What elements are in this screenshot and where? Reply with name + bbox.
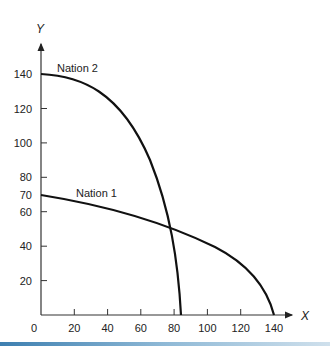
x-tick-labels: 0 20 40 60 80 100 120 140 <box>31 322 283 334</box>
svg-text:60: 60 <box>20 206 32 218</box>
svg-text:140: 140 <box>265 322 283 334</box>
svg-text:80: 80 <box>168 322 180 334</box>
svg-text:120: 120 <box>232 322 250 334</box>
x-ticks <box>74 309 240 315</box>
svg-text:20: 20 <box>20 275 32 287</box>
nation-1-curve <box>41 195 274 315</box>
svg-text:80: 80 <box>20 171 32 183</box>
svg-text:20: 20 <box>68 322 80 334</box>
svg-text:0: 0 <box>31 322 37 334</box>
ppf-chart: Y X 20 40 60 70 80 100 120 140 0 20 40 6… <box>0 0 330 346</box>
svg-text:60: 60 <box>135 322 147 334</box>
x-axis-title: X <box>300 309 310 323</box>
svg-text:140: 140 <box>14 68 32 80</box>
svg-text:100: 100 <box>198 322 216 334</box>
svg-text:40: 40 <box>20 240 32 252</box>
svg-text:70: 70 <box>20 189 32 201</box>
nation-1-label: Nation 1 <box>76 187 117 199</box>
y-axis-title: Y <box>36 22 45 36</box>
y-tick-labels: 20 40 60 70 80 100 120 140 <box>14 68 32 287</box>
bottom-border <box>0 342 330 346</box>
nation-2-label: Nation 2 <box>57 62 98 74</box>
svg-text:40: 40 <box>101 322 113 334</box>
svg-text:100: 100 <box>14 137 32 149</box>
svg-text:120: 120 <box>14 103 32 115</box>
